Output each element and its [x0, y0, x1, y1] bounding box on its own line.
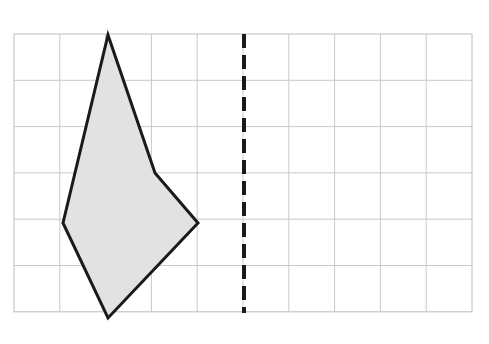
geometry-figure: Shaded polygon on a grid with a vertical… [0, 0, 489, 344]
figure-container: Shaded polygon on a grid with a vertical… [0, 0, 489, 344]
shaded-kite-polygon [63, 35, 198, 318]
